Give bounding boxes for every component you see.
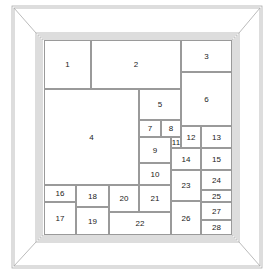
panel-25: 25 bbox=[201, 190, 232, 202]
panel-label: 2 bbox=[134, 60, 138, 69]
panel-28: 28 bbox=[201, 220, 232, 235]
panel-label: 25 bbox=[212, 192, 221, 201]
panel-label: 20 bbox=[120, 194, 129, 203]
panel-label: 11 bbox=[172, 138, 180, 147]
panel-label: 9 bbox=[153, 146, 157, 155]
panel-label: 10 bbox=[151, 170, 160, 179]
panel-9: 9 bbox=[139, 137, 171, 163]
panel-19: 19 bbox=[76, 207, 109, 235]
panel-label: 5 bbox=[158, 100, 162, 109]
panel-label: 18 bbox=[88, 192, 97, 201]
panel-label: 26 bbox=[182, 214, 191, 223]
panel-7: 7 bbox=[139, 120, 161, 137]
panel-14: 14 bbox=[171, 148, 201, 170]
panel-26: 26 bbox=[171, 201, 201, 235]
panel-label: 28 bbox=[212, 223, 221, 232]
panel-label: 27 bbox=[212, 207, 221, 216]
panel-12: 12 bbox=[181, 126, 201, 148]
panel-label: 16 bbox=[56, 189, 65, 198]
panel-label: 24 bbox=[212, 176, 221, 185]
panel-label: 14 bbox=[182, 155, 191, 164]
panel-label: 4 bbox=[89, 133, 93, 142]
panel-label: 21 bbox=[151, 194, 160, 203]
panel-24: 24 bbox=[201, 170, 232, 190]
panel-15: 15 bbox=[201, 148, 232, 170]
panel-label: 13 bbox=[212, 133, 221, 142]
panel-11: 11 bbox=[171, 137, 181, 148]
panel-label: 19 bbox=[88, 217, 97, 226]
panel-21: 21 bbox=[139, 185, 171, 212]
panel-label: 22 bbox=[136, 219, 145, 228]
panel-23: 23 bbox=[171, 170, 201, 201]
panel-label: 6 bbox=[204, 95, 208, 104]
panel-5: 5 bbox=[139, 89, 181, 120]
panel-22: 22 bbox=[109, 212, 171, 235]
panel-6: 6 bbox=[181, 72, 232, 126]
panel-18: 18 bbox=[76, 185, 109, 207]
panel-27: 27 bbox=[201, 202, 232, 220]
panel-label: 12 bbox=[187, 133, 196, 142]
panel-label: 17 bbox=[56, 214, 65, 223]
panel-16: 16 bbox=[44, 185, 76, 202]
panel-3: 3 bbox=[181, 40, 232, 72]
panel-8: 8 bbox=[161, 120, 181, 137]
panel-1: 1 bbox=[44, 40, 91, 89]
panel-label: 7 bbox=[148, 124, 152, 133]
panel-label: 8 bbox=[169, 124, 173, 133]
panel-10: 10 bbox=[139, 163, 171, 185]
panel-label: 1 bbox=[65, 60, 69, 69]
panel-13: 13 bbox=[201, 126, 232, 148]
panel-label: 3 bbox=[204, 52, 208, 61]
panel-label: 15 bbox=[212, 155, 221, 164]
panel-2: 2 bbox=[91, 40, 181, 89]
panel-label: 23 bbox=[182, 181, 191, 190]
panel-20: 20 bbox=[109, 185, 139, 212]
panel-4: 4 bbox=[44, 89, 139, 185]
panel-17: 17 bbox=[44, 202, 76, 235]
